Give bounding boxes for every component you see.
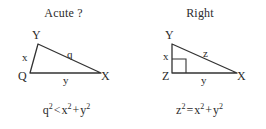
panel-title-right: Right xyxy=(133,6,266,21)
acute-vertex-label-Q: Q xyxy=(18,70,27,82)
acute-formula-rhs2-exp: 2 xyxy=(86,102,90,111)
right-vertex-label-Y: Y xyxy=(165,29,174,41)
right-formula-rhs2-exp: 2 xyxy=(219,102,223,111)
acute-formula-rhs1-exp: 2 xyxy=(68,102,72,111)
right-vertex-label-X: X xyxy=(237,70,246,82)
acute-formula-operator: < xyxy=(53,103,62,117)
panel-title-acute: Acute ? xyxy=(0,6,133,21)
acute-side-label-x: x xyxy=(22,52,28,63)
acute-vertex-label-X: X xyxy=(101,70,110,82)
right-side-label-y: y xyxy=(201,75,207,86)
acute-vertex-label-Y: Y xyxy=(32,29,41,41)
right-vertex-label-Z: Z xyxy=(162,70,169,82)
right-angle-mark-icon xyxy=(172,59,186,73)
acute-formula: q2<x2+y2 xyxy=(0,103,133,118)
right-formula-plus: + xyxy=(204,103,213,117)
panel-right-triangle: Right Y Z X x z y z2=x2+y2 xyxy=(133,0,266,129)
acute-formula-plus: + xyxy=(72,103,81,117)
right-side-label-z: z xyxy=(203,48,208,59)
acute-triangle-figure: Y Q X x q y xyxy=(0,30,133,90)
right-triangle-figure: Y Z X x z y xyxy=(133,30,266,90)
right-side-label-x: x xyxy=(163,51,169,62)
right-formula-operator: = xyxy=(185,103,194,117)
acute-side-label-y: y xyxy=(63,75,69,86)
acute-side-label-q: q xyxy=(67,49,73,60)
acute-triangle-shape xyxy=(30,44,101,73)
panel-acute-triangle: Acute ? Y Q X x q y q2<x2+y2 xyxy=(0,0,133,129)
right-formula: z2=x2+y2 xyxy=(133,103,266,118)
